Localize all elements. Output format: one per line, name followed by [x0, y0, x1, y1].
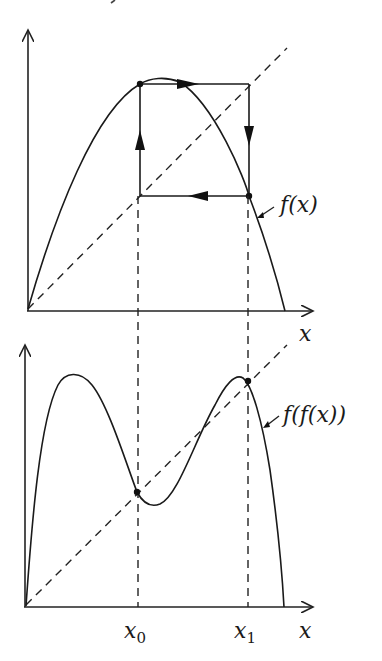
arrow-up-icon: [135, 130, 145, 150]
fixed-point-x0: [134, 489, 140, 495]
top-panel: x f(x): [27, 30, 318, 346]
ff-label: f(f(x)): [281, 402, 346, 427]
point-x0-f: [137, 81, 143, 87]
top-x-axis-label: x: [299, 321, 312, 346]
cobweb-cycle: [135, 79, 254, 201]
f-label: f(x): [278, 192, 318, 217]
point-x1-f: [246, 193, 252, 199]
period-doubling-diagram: x f(x): [0, 0, 382, 661]
pointer-icon: [257, 212, 264, 218]
ff-curve: [26, 374, 284, 607]
bottom-x-axis-label: x: [299, 618, 312, 643]
arrow-left-icon: [188, 191, 208, 201]
fixed-point-x1: [245, 378, 251, 384]
cropped-fragment: [111, 0, 115, 3]
x1-label: x1: [234, 618, 256, 647]
bottom-panel: f(f(x)) x0 x1 x: [24, 345, 346, 647]
x0-label: x0: [124, 618, 146, 647]
arrow-down-icon: [244, 126, 254, 146]
pointer-icon: [263, 421, 270, 428]
